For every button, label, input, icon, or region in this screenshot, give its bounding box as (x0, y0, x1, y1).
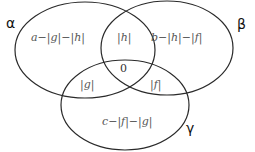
region-beta-only: b−|h|−|f| (151, 31, 202, 45)
region-beta-gamma: |f| (150, 78, 161, 92)
label-gamma: γ (186, 120, 194, 136)
region-alpha-only: a−|g|−|h| (31, 31, 85, 45)
venn-diagram: α β γ a−|g|−|h| b−|h|−|f| c−|f|−|g| |h| … (0, 0, 255, 152)
region-alpha-gamma: |g| (80, 78, 94, 92)
label-alpha: α (6, 15, 15, 31)
region-gamma-only: c−|f|−|g| (102, 115, 153, 129)
region-all-three: 0 (120, 62, 127, 75)
region-alpha-beta: |h| (117, 31, 132, 45)
label-beta: β (237, 16, 246, 32)
set-beta-circle (101, 1, 233, 95)
